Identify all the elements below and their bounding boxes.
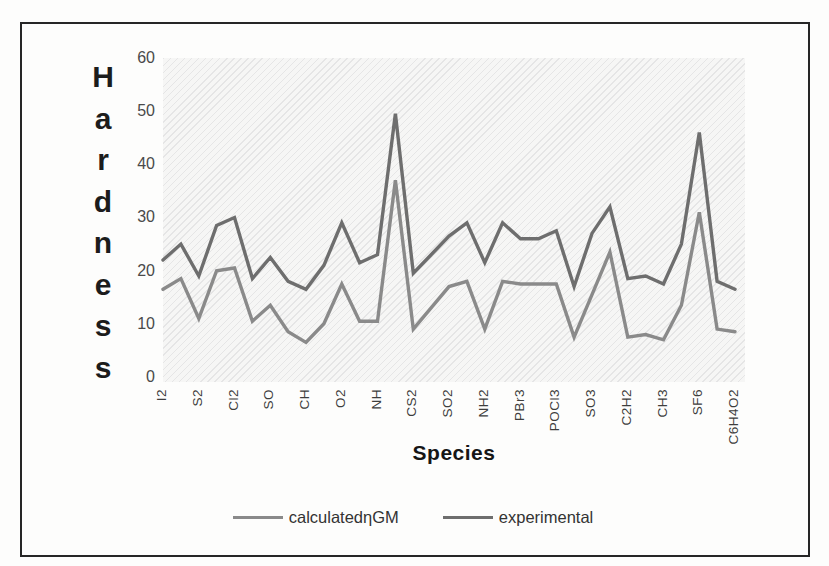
legend-line-swatch xyxy=(233,516,283,519)
x-tick-label: SO xyxy=(261,389,276,410)
x-tick-label: CS2 xyxy=(404,389,419,417)
x-tick-label: I2 xyxy=(154,389,169,401)
legend-label: calculatedηGM xyxy=(289,508,399,527)
x-tick-label: C6H4O2 xyxy=(726,389,741,445)
x-tick-label: POCl3 xyxy=(547,389,562,431)
legend-line-swatch xyxy=(443,516,493,519)
x-tick-label: CH xyxy=(297,389,312,410)
y-tick-label: 30 xyxy=(110,208,155,226)
y-axis-title-letter: n xyxy=(84,222,122,264)
x-tick-label: SF6 xyxy=(690,389,705,415)
y-tick-label: 40 xyxy=(110,155,155,173)
x-tick-label: Cl2 xyxy=(226,389,241,411)
y-tick-label: 20 xyxy=(110,262,155,280)
x-tick-label: CH3 xyxy=(655,389,670,418)
chart-page: Hardness 0102030405060 I2S2Cl2SOCHO2NHCS… xyxy=(0,0,829,566)
x-axis-title: Species xyxy=(163,441,745,465)
x-tick-label: SO2 xyxy=(440,389,455,418)
x-tick-label: S2 xyxy=(190,389,205,407)
legend-label: experimental xyxy=(499,508,593,527)
x-tick-label: O2 xyxy=(333,389,348,408)
x-tick-label: NH xyxy=(369,389,384,410)
y-tick-label: 10 xyxy=(110,315,155,333)
y-tick-label: 0 xyxy=(110,368,155,386)
legend-item: calculatedηGM xyxy=(233,508,399,527)
y-tick-label: 60 xyxy=(110,49,155,67)
legend: calculatedηGMexperimental xyxy=(20,508,806,527)
x-tick-label: PBr3 xyxy=(512,389,527,421)
y-tick-label: 50 xyxy=(110,102,155,120)
legend-item: experimental xyxy=(443,508,593,527)
x-tick-label: C2H2 xyxy=(619,389,634,426)
x-tick-label: NH2 xyxy=(476,389,491,418)
x-tick-label: SO3 xyxy=(583,389,598,418)
plot-area xyxy=(163,58,745,382)
